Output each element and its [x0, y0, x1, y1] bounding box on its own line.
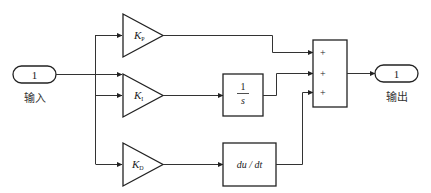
integrator-numerator: 1 [241, 81, 246, 92]
derivative-block[interactable]: du / dt [223, 143, 276, 186]
gain-kd-block[interactable]: KD [123, 143, 163, 186]
pid-diagram: 1 输入 KP KI KD 1 [0, 0, 431, 193]
integrator-block[interactable]: 1 s [223, 74, 263, 116]
kp-to-sum-line [163, 36, 313, 53]
output-port-number: 1 [394, 68, 400, 80]
gain-ki-block[interactable]: KI [123, 74, 163, 117]
gain-kp-block[interactable]: KP [123, 14, 163, 57]
output-port-label: 输出 [386, 90, 408, 104]
sum-sign-3: + [320, 87, 326, 98]
derivative-label: du / dt [237, 159, 263, 170]
gain-kd-subscript: D [139, 165, 144, 171]
gain-ki-subscript: I [141, 96, 143, 102]
sum-sign-2: + [320, 68, 326, 79]
input-port-label: 输入 [24, 91, 46, 105]
input-port[interactable]: 1 [13, 66, 56, 83]
sum-block[interactable]: + + + [313, 40, 347, 107]
input-branch-lines [56, 35, 122, 165]
output-port[interactable]: 1 [375, 65, 418, 82]
sum-sign-1: + [320, 47, 326, 58]
derivative-to-sum-line [276, 93, 313, 165]
integrator-denominator: s [241, 95, 245, 106]
input-port-number: 1 [32, 69, 38, 81]
